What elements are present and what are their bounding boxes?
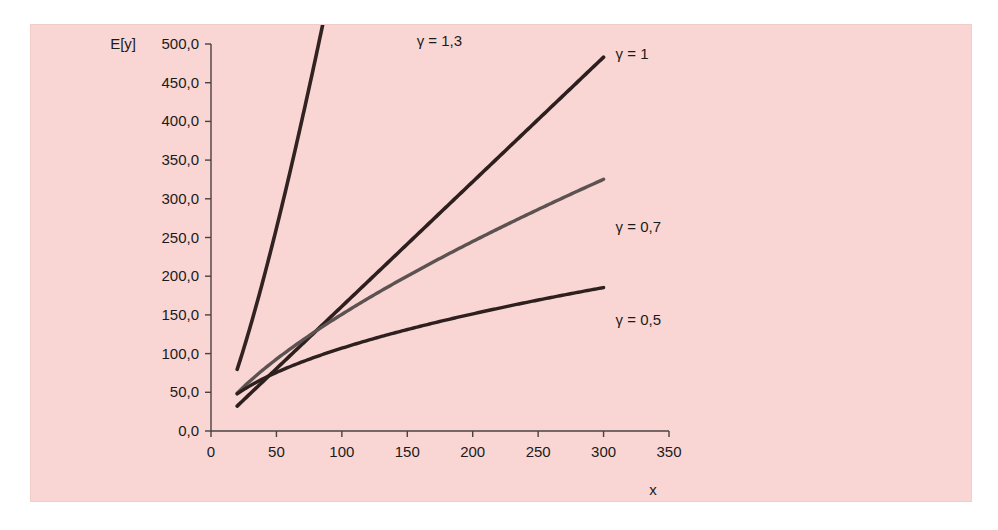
series-label-gamma-1: γ = 1 xyxy=(616,45,649,62)
curve-gamma-0-5 xyxy=(237,288,603,394)
curve-gamma-1 xyxy=(237,57,603,406)
y-tick-label: 500,0 xyxy=(161,35,199,52)
x-tick-label: 50 xyxy=(268,443,285,460)
x-tick-label: 150 xyxy=(395,443,420,460)
chart-svg: 0,050,0100,0150,0200,0250,0300,0350,0400… xyxy=(31,25,973,503)
x-tick-label: 0 xyxy=(207,443,215,460)
series-labels-group: γ = 1,3γ = 1γ = 0,7γ = 0,5 xyxy=(417,32,661,328)
y-tick-label: 300,0 xyxy=(161,190,199,207)
x-tick-label: 250 xyxy=(526,443,551,460)
y-tick-label: 150,0 xyxy=(161,306,199,323)
x-tick-label: 200 xyxy=(460,443,485,460)
y-axis-title: E[y] xyxy=(110,35,136,52)
x-tick-label: 100 xyxy=(329,443,354,460)
curve-gamma-1-3 xyxy=(237,25,405,369)
x-axis-title: x xyxy=(649,481,657,498)
x-tick-label: 350 xyxy=(656,443,681,460)
series-label-gamma-1-3: γ = 1,3 xyxy=(417,32,462,49)
y-tick-label: 50,0 xyxy=(170,383,199,400)
y-tick-label: 0,0 xyxy=(178,422,199,439)
y-tick-label: 350,0 xyxy=(161,151,199,168)
y-tick-label: 100,0 xyxy=(161,345,199,362)
curves-group xyxy=(237,25,603,406)
axes-group: 0,050,0100,0150,0200,0250,0300,0350,0400… xyxy=(161,35,681,460)
chart-panel: 0,050,0100,0150,0200,0250,0300,0350,0400… xyxy=(30,24,972,502)
series-label-gamma-0-5: γ = 0,5 xyxy=(616,311,661,328)
y-tick-label: 400,0 xyxy=(161,112,199,129)
curve-gamma-0-7 xyxy=(237,179,603,393)
x-tick-label: 300 xyxy=(591,443,616,460)
series-label-gamma-0-7: γ = 0,7 xyxy=(616,218,661,235)
y-tick-label: 200,0 xyxy=(161,267,199,284)
y-tick-label: 450,0 xyxy=(161,74,199,91)
y-tick-label: 250,0 xyxy=(161,229,199,246)
chart-figure: 0,050,0100,0150,0200,0250,0300,0350,0400… xyxy=(0,0,998,530)
